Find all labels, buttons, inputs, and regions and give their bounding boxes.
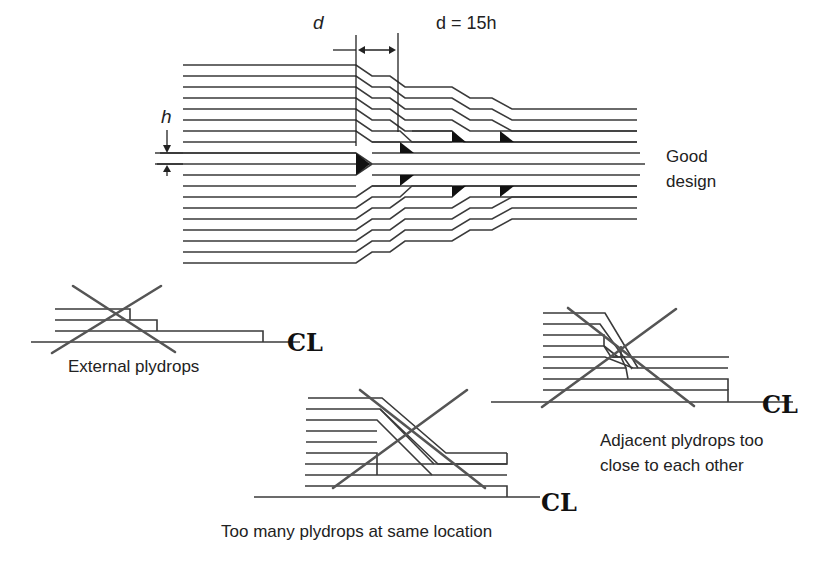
d-formula-label: d = 15h <box>436 13 497 33</box>
resin-pocket-icon <box>500 131 514 142</box>
resin-pocket-icon <box>400 175 414 186</box>
resin-pocket-icon <box>400 142 414 153</box>
adjacent-plydrops-caption-line1: Adjacent plydrops too <box>600 431 764 451</box>
centerline-symbol-icon: CL <box>287 328 323 357</box>
resin-pocket-icon <box>500 186 514 197</box>
d-dimension-label: d <box>313 13 324 33</box>
cross-mark <box>360 390 485 488</box>
resin-pocket-icon <box>356 153 370 175</box>
centerline-symbol-icon: CL <box>541 488 577 517</box>
h-dimension-label: h <box>161 107 172 127</box>
external-plydrops-caption: External plydrops <box>68 357 199 377</box>
good-design-laminate <box>155 33 645 263</box>
good-design-caption-line1: Good <box>666 147 708 167</box>
cross-mark <box>333 390 467 488</box>
ply-drop-diagram <box>0 0 838 569</box>
adjacent-plydrops-laminate <box>491 308 793 407</box>
adjacent-plydrops-caption-line2: close to each other <box>600 456 744 476</box>
external-plydrops-laminate <box>31 286 300 353</box>
good-design-caption-line2: design <box>666 172 716 192</box>
same-location-plydrops-caption: Too many plydrops at same location <box>221 522 492 542</box>
centerline-symbol-icon: CL <box>762 390 798 419</box>
same-location-plydrops-laminate <box>254 390 540 497</box>
